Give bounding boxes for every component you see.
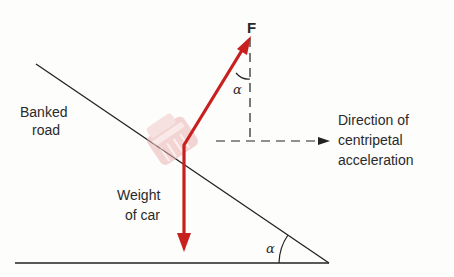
centripetal-label-line2: centripetal (338, 130, 414, 150)
centripetal-arrowhead-icon (318, 137, 330, 145)
banked-road-label-line2: road (20, 121, 67, 139)
weight-arrowhead-icon (177, 233, 191, 252)
banked-road-label: Banked road (20, 103, 67, 139)
alpha-arc-top (236, 73, 250, 79)
alpha-label-top: α (233, 82, 242, 98)
centripetal-label-line3: acceleration (338, 150, 414, 170)
weight-label-line1: Weight (117, 185, 160, 205)
weight-label: Weight of car (117, 185, 160, 225)
weight-label-line2: of car (117, 205, 160, 225)
centripetal-label: Direction of centripetal acceleration (338, 110, 414, 170)
centripetal-label-line1: Direction of (338, 110, 414, 130)
alpha-arc-bottom (279, 235, 288, 263)
car-icon (140, 108, 200, 167)
banked-road-label-line1: Banked (20, 103, 67, 121)
alpha-label-bottom: α (266, 241, 275, 257)
force-label: F (247, 20, 256, 36)
